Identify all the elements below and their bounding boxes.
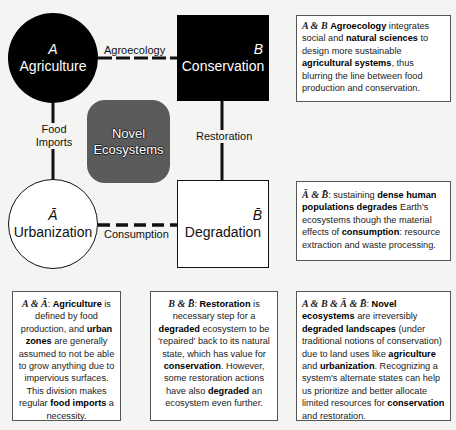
text: and restoration. [302,411,366,421]
term: food imports [50,398,106,408]
text: : sustaining [328,190,377,200]
agriculture-node: A Agriculture [8,13,98,103]
node-label: Degradation [185,224,261,241]
edge-label-consumption: Consumption [104,228,169,241]
term: agriculture [388,349,435,359]
edge-label-food-imports: Food Imports [32,123,76,149]
edge-label-restoration: Restoration [195,130,253,143]
degradation-node: B̄ Degradation [177,180,269,268]
consumption-description-box: Ā & B̄: sustaining dense human populatio… [296,181,451,261]
node-label-line2: Ecosystems [93,142,163,158]
node-label: Urbanization [14,224,93,241]
term: conservation [387,398,444,408]
text: and [302,361,320,371]
term: natural sciences [346,33,418,43]
term: degraded [208,386,249,396]
node-symbol: B̄ [253,207,262,224]
term: Restoration [199,299,250,309]
node-label-line1: Novel [112,126,145,142]
box-heading: Ā & B̄ [302,189,328,200]
agroecology-description-box: A & B Agroecology integrates social and … [296,15,451,102]
box-heading: A & B [302,20,328,31]
urbanization-node: Ā Urbanization [8,179,98,269]
node-symbol: A [48,41,57,58]
edge-label-agroecology: Agroecology [104,44,165,57]
term: consumption [342,227,400,237]
conservation-node: B Conservation [177,15,269,101]
node-symbol: B [254,41,263,58]
edge-label-line2: Imports [32,136,76,149]
term: Agroecology [330,21,386,31]
term: Agriculture [53,299,102,309]
term: urbanization [320,361,375,371]
term: conservation [164,361,221,371]
node-label: Conservation [182,58,265,75]
restoration-description-box: B & B̄: Restoration is necessary step fo… [150,291,278,421]
node-symbol: Ā [48,207,57,224]
term: degraded landscapes [302,324,396,334]
term: degraded [159,324,200,334]
box-heading: A & Ā [22,298,48,309]
text: are irreversibly [355,311,418,321]
term: agricultural systems [302,58,391,68]
box-heading: A & B & Ā & B̄ [302,298,366,309]
food-imports-description-box: A & Ā: Agriculture is defined by food pr… [12,291,121,421]
novel-ecosystems-description-box: A & B & Ā & B̄: Novel ecosystems are irr… [296,291,451,421]
edge-label-line1: Food [32,123,76,136]
box-heading: B & B̄ [168,298,194,309]
novel-ecosystems-node: Novel Ecosystems [87,100,170,183]
node-label: Agriculture [20,58,87,75]
